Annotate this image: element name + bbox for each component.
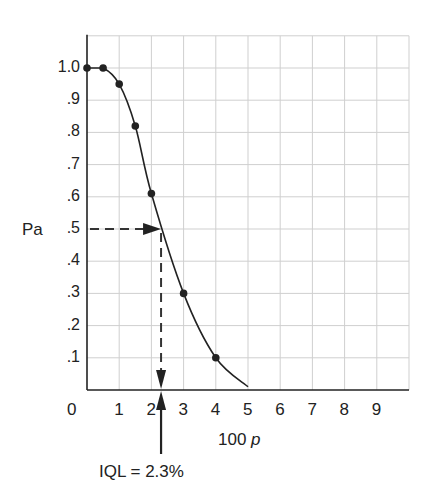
x-tick-label: 6 — [275, 401, 284, 418]
y-tick-label: .5 — [67, 220, 80, 236]
iql-annotation: IQL = 2.3% — [99, 463, 184, 480]
x-tick-label: 8 — [340, 401, 349, 418]
data-point — [148, 190, 156, 198]
annotations — [90, 223, 166, 454]
x-tick-label: 0 — [67, 401, 76, 418]
y-tick-label: .1 — [67, 349, 80, 365]
y-tick-label: .8 — [67, 123, 80, 139]
x-tick-label: 1 — [114, 401, 123, 418]
data-point — [180, 290, 188, 298]
data-point — [99, 64, 107, 72]
y-axis-label: Pa — [22, 221, 43, 238]
x-tick-label: 7 — [307, 401, 316, 418]
x-axis-label-prefix: 100 — [218, 430, 251, 449]
data-point — [132, 122, 140, 130]
x-tick-label: 5 — [243, 401, 252, 418]
data-point — [212, 354, 220, 362]
data-point — [83, 64, 91, 72]
data-point — [115, 80, 123, 88]
arrow-down-icon — [156, 370, 166, 389]
arrow-up-icon — [156, 391, 166, 410]
oc-curve-line — [87, 68, 248, 387]
grid-lines — [87, 36, 409, 390]
x-tick-label: 2 — [146, 401, 155, 418]
x-tick-label: 9 — [372, 401, 381, 418]
x-axis-label: 100 p — [218, 431, 261, 448]
y-tick-label: .3 — [67, 284, 80, 300]
y-tick-label: .4 — [67, 252, 80, 268]
x-tick-label: 3 — [179, 401, 188, 418]
x-axis-label-variable: p — [251, 430, 260, 449]
arrow-right-icon — [143, 223, 161, 235]
x-tick-label: 4 — [211, 401, 220, 418]
y-tick-label: .9 — [67, 91, 80, 107]
y-tick-label: 1.0 — [58, 59, 80, 75]
y-tick-label: .6 — [67, 188, 80, 204]
y-tick-label: .7 — [67, 156, 80, 172]
y-tick-label: .2 — [67, 317, 80, 333]
